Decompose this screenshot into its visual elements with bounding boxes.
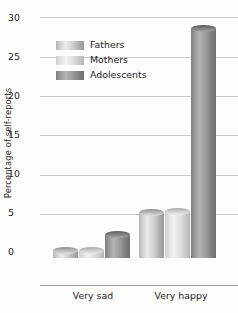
legend-swatch-fill — [56, 71, 84, 80]
bar-cap — [139, 209, 164, 216]
bar-cap — [79, 247, 104, 254]
bar-very-sad-adolescents — [105, 234, 130, 258]
y-tick-label-30: 30 — [6, 12, 40, 23]
y-tick-label-5: 5 — [6, 207, 40, 218]
legend-swatch-fathers — [56, 41, 84, 50]
legend-swatch-fill — [56, 56, 84, 65]
bar-very-happy-mothers — [165, 211, 190, 258]
legend-swatch-mothers — [56, 56, 84, 65]
gridline-30 — [40, 17, 238, 18]
legend-swatch-fill — [56, 41, 84, 50]
bar-cap — [191, 25, 216, 32]
bar-very-sad-mothers — [79, 250, 104, 258]
bar-cap — [53, 247, 78, 254]
y-tick-label-0: 0 — [6, 246, 40, 257]
bar-body — [191, 28, 216, 258]
x-tick-label-very-sad: Very sad — [48, 290, 138, 301]
bar-body — [139, 212, 164, 258]
bar-cap — [165, 208, 190, 215]
legend-label-fathers: Fathers — [90, 40, 124, 49]
gridline-0-baseline — [40, 285, 238, 286]
legend-item-adolescents: Adolescents — [56, 68, 180, 82]
y-tick-label-20: 20 — [6, 90, 40, 101]
y-tick-label-25: 25 — [6, 51, 40, 62]
legend-swatch-adolescents — [56, 71, 84, 80]
y-tick-label-10: 10 — [6, 168, 40, 179]
bar-very-sad-fathers — [53, 250, 78, 258]
bar-very-happy-adolescents — [191, 28, 216, 258]
bar-very-happy-fathers — [139, 212, 164, 258]
bar-chart: Percentage of self-reports 30 25 20 15 1… — [0, 0, 238, 313]
y-axis-tick-labels: 30 25 20 15 10 5 0 — [0, 0, 40, 286]
bar-cap — [105, 231, 130, 238]
y-tick-label-15: 15 — [6, 129, 40, 140]
chart-legend: Fathers Mothers Adolescents — [56, 38, 180, 83]
legend-item-mothers: Mothers — [56, 53, 180, 67]
legend-label-adolescents: Adolescents — [90, 70, 147, 79]
legend-label-mothers: Mothers — [90, 55, 128, 64]
x-tick-label-very-happy: Very happy — [134, 290, 228, 301]
legend-item-fathers: Fathers — [56, 38, 180, 52]
bar-body — [165, 211, 190, 258]
x-axis-tick-labels: Very sad Very happy — [40, 290, 238, 310]
